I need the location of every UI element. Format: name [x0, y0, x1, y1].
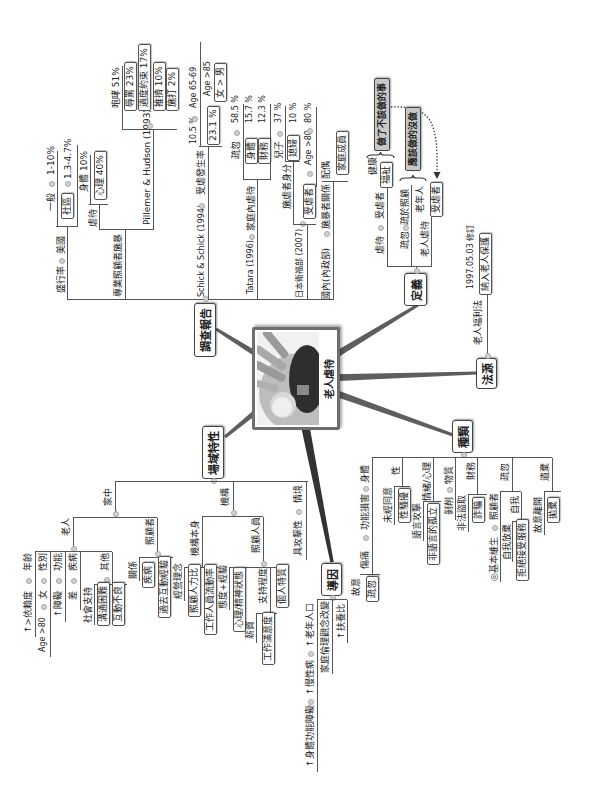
connector-line — [200, 42, 201, 147]
general-label: 一般 — [45, 193, 57, 211]
connector-line — [333, 182, 334, 300]
refuse-service: 拒絕接受服務 — [516, 519, 529, 581]
study-schick: Schick & Schick (1994) — [196, 205, 208, 297]
connector-line — [411, 185, 412, 267]
connector-line — [387, 187, 388, 267]
connector-line — [270, 568, 271, 614]
topic-definition[interactable]: 定義 — [404, 273, 427, 306]
connector-dot — [41, 578, 47, 584]
abuse-item: 過度約束 17% — [138, 44, 151, 111]
inclusion-box: 納入老人保護 — [479, 233, 492, 295]
definition-term: 老人虐待 — [419, 221, 431, 257]
connector-line — [544, 492, 545, 535]
connector-line — [316, 107, 317, 187]
connector-line — [99, 229, 153, 230]
elder-factor: 功能 — [52, 553, 64, 571]
connector-line — [322, 181, 348, 182]
domestic-abuse-label: 家庭內虐待 — [245, 186, 257, 231]
topic-setting[interactable]: 場域特性 — [202, 426, 224, 479]
gender-ratio: 女 > 男 — [214, 63, 227, 102]
other-item: 社會支持 — [82, 587, 94, 623]
caregiver-item: 關係 — [127, 561, 139, 579]
connector-dot — [324, 231, 330, 237]
elder-effect: ↑>依賴度 — [22, 591, 34, 633]
institution-item: 經營理念 — [172, 563, 184, 599]
brace-icon — [399, 174, 427, 182]
elder-other: 其他 — [99, 553, 111, 571]
connector-dot — [249, 234, 255, 240]
abuser-label: 媳婦 — [287, 135, 300, 161]
abuser-label: 兒子 — [273, 141, 285, 159]
connector-line — [293, 162, 294, 225]
abuser-identity-label: 施虐者身分 — [281, 164, 293, 209]
abuse-item: 辱罵 23% — [124, 62, 137, 111]
incidence-label: 受虐發生率 — [195, 150, 207, 195]
psychological-rate: 40% — [95, 155, 105, 175]
connector-line — [387, 266, 431, 267]
sexual-non-consent: 未經同意 — [382, 487, 394, 523]
commission-box: 做了不該做的事 — [374, 78, 390, 151]
aspect-health: 健康 — [367, 157, 379, 175]
connector-dot — [485, 353, 491, 359]
law-label: 老人福利法 — [472, 300, 484, 345]
elder-effect: 女 — [37, 590, 49, 599]
connector-line — [544, 491, 561, 492]
setting-situation: 情境 — [292, 485, 304, 503]
connector-dot — [26, 578, 32, 584]
connector-dot — [378, 225, 384, 231]
connector-line — [394, 487, 395, 525]
connector-dot — [277, 131, 283, 137]
connector-line — [243, 179, 270, 180]
connector-line — [89, 204, 108, 205]
cause-dependency: ↑扶養比 — [335, 604, 347, 639]
connector-dot — [492, 525, 498, 531]
age-a: Age 65-69 — [188, 67, 200, 108]
central-topic-label: 老人虐待 — [319, 330, 337, 427]
cause-item: ↑慢性病 — [304, 660, 316, 695]
physical-rate: 10% — [78, 151, 90, 171]
rate-b: 23.1 % — [207, 106, 220, 145]
item-value: 10% — [154, 66, 164, 86]
connector-line — [317, 600, 318, 772]
neglect-self: 自我 — [509, 496, 521, 514]
neglect-caregiver: 照顧者 — [488, 493, 500, 520]
community-label: 社區 — [61, 193, 74, 219]
victim-label: 受虐者 — [303, 184, 316, 219]
connector-line — [112, 552, 113, 585]
situation-aggressive: 具攻擊性 — [292, 520, 304, 556]
connector-line — [122, 129, 177, 130]
connector-line — [125, 230, 126, 300]
cause-item: ↑老年人口 — [304, 603, 316, 647]
connector-dot — [308, 651, 314, 657]
financial-theft: 非法盜取 — [456, 495, 468, 531]
type-emotional: 情緒/心理 — [421, 462, 433, 501]
definition-term: 疏忽 — [399, 231, 411, 249]
connector-line — [80, 552, 81, 610]
staff-traits: 個人特質 — [276, 564, 289, 608]
connector-line — [35, 552, 36, 637]
connector-line — [202, 517, 203, 568]
caregiver-item: 疾病 — [142, 562, 155, 588]
connector-line — [99, 205, 100, 230]
elder-detail: Age >80 — [37, 617, 49, 652]
connector-line — [208, 147, 209, 300]
victim-rate: 80 % — [303, 103, 315, 123]
professional-abuse-label: 專業照顧者施暴 — [112, 234, 124, 297]
topic-causes[interactable]: 導因 — [321, 563, 342, 596]
topic-types[interactable]: 種類 — [452, 420, 473, 453]
type-neglect: 疏忽 — [499, 463, 511, 481]
central-topic[interactable]: 老人虐待 — [252, 327, 340, 430]
elder-abuse-illustration-icon — [257, 332, 319, 425]
definition-subject: 疏於照顧 — [399, 189, 411, 225]
arrowhead-icon — [434, 172, 441, 179]
institution-itself: 機構本身 — [189, 520, 201, 556]
item-label: 施打 — [167, 89, 177, 107]
abuse-item: 推擠 10% — [153, 62, 166, 111]
connector-dot — [363, 535, 369, 541]
connector-line — [512, 522, 513, 562]
connector-line — [423, 501, 441, 502]
connector-line — [153, 130, 154, 230]
topic-legal[interactable]: 法源 — [476, 358, 497, 389]
topic-survey[interactable]: 調查報告 — [194, 303, 216, 357]
abandonment-desert: 拋棄 — [547, 497, 560, 523]
